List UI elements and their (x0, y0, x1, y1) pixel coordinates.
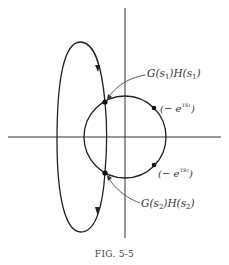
figure-caption: FIG. 5-5 (0, 249, 229, 259)
label-part: G(s (147, 67, 165, 79)
label-neg-exp-s1: (− eτs₁) (160, 101, 195, 114)
label-part: ) (191, 197, 195, 209)
label-superscript: τs₂ (179, 166, 189, 174)
label-part: )H(s (169, 67, 192, 79)
label-part: (− e (158, 168, 179, 179)
leader-s2 (108, 177, 140, 203)
label-part: ) (191, 103, 195, 114)
point-s2 (102, 170, 107, 175)
label-g-s2-h-s2: G(s2)H(s2) (141, 197, 195, 211)
point-s1 (102, 99, 107, 104)
label-part: (− e (160, 103, 181, 114)
label-part: )H(s (163, 197, 186, 209)
leader-s1 (108, 75, 145, 98)
marker-s1 (152, 106, 157, 111)
label-neg-exp-s2: (− eτs₂) (158, 166, 193, 179)
label-g-s1-h-s1: G(s1)H(s1) (147, 67, 201, 81)
label-superscript: τs₁ (181, 101, 191, 109)
label-part: G(s (141, 197, 159, 209)
label-part: ) (197, 67, 201, 79)
label-part: ) (189, 168, 193, 179)
marker-s2 (152, 163, 157, 168)
nyquist-diagram (0, 0, 229, 265)
